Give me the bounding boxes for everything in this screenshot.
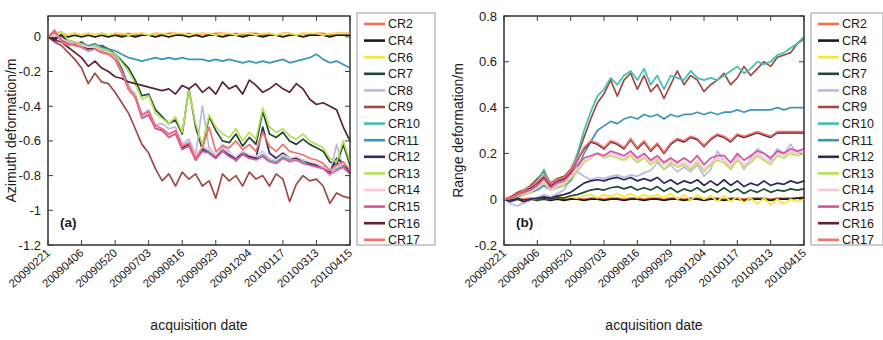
y-tick-label: -0.8 <box>19 168 41 183</box>
legend-label-cr17: CR17 <box>842 233 874 247</box>
legend-label-cr12: CR12 <box>842 150 874 164</box>
panel-b-svg: 0.80.60.40.20-0.220090221200904062009052… <box>441 0 883 340</box>
panel-tag: (b) <box>516 215 533 230</box>
legend-label-cr6: CR6 <box>388 51 413 65</box>
y-tick-label: 0.8 <box>479 9 497 24</box>
legend-label-cr15: CR15 <box>842 200 874 214</box>
y-tick-label: 0 <box>490 192 497 207</box>
y-tick-label: 0.2 <box>479 146 497 161</box>
y-tick-label: -0.6 <box>19 133 41 148</box>
legend-label-cr7: CR7 <box>388 67 413 81</box>
y-tick-label: 0.4 <box>479 100 497 115</box>
y-tick-label: -1.2 <box>19 238 41 253</box>
legend-label-cr12: CR12 <box>388 150 420 164</box>
legend-label-cr13: CR13 <box>388 167 420 181</box>
panel-a: 0-0.2-0.4-0.6-0.8-1-1.220090221200904062… <box>0 0 441 340</box>
legend-label-cr8: CR8 <box>842 84 867 98</box>
figure-container: 0-0.2-0.4-0.6-0.8-1-1.220090221200904062… <box>0 0 883 340</box>
legend-label-cr10: CR10 <box>388 117 420 131</box>
y-axis-title: Azimuth deformation/m <box>3 59 19 203</box>
y-axis-title: Range deformation/m <box>450 63 466 198</box>
legend-label-cr4: CR4 <box>842 34 867 48</box>
legend-label-cr16: CR16 <box>842 217 874 231</box>
legend-label-cr14: CR14 <box>842 183 874 197</box>
legend-label-cr2: CR2 <box>388 17 413 31</box>
x-axis-title: acquisition date <box>150 317 248 333</box>
legend-label-cr9: CR9 <box>842 100 867 114</box>
panel-tag: (a) <box>60 215 77 230</box>
legend-label-cr9: CR9 <box>388 100 413 114</box>
legend-label-cr15: CR15 <box>388 200 420 214</box>
legend-label-cr11: CR11 <box>388 134 419 148</box>
legend-label-cr16: CR16 <box>388 217 420 231</box>
legend-label-cr2: CR2 <box>842 17 867 31</box>
y-tick-label: -1 <box>29 203 41 218</box>
legend-label-cr6: CR6 <box>842 51 867 65</box>
y-tick-label: 0 <box>34 29 41 44</box>
legend-label-cr4: CR4 <box>388 34 413 48</box>
panel-b: 0.80.60.40.20-0.220090221200904062009052… <box>441 0 882 340</box>
x-axis-title: acquisition date <box>605 317 703 333</box>
y-tick-label: -0.2 <box>19 64 41 79</box>
plot-frame <box>504 16 804 245</box>
legend-label-cr17: CR17 <box>388 233 420 247</box>
y-tick-label: -0.4 <box>19 99 41 114</box>
legend-label-cr8: CR8 <box>388 84 413 98</box>
y-tick-label: -0.2 <box>475 238 497 253</box>
legend-label-cr14: CR14 <box>388 183 420 197</box>
panel-a-svg: 0-0.2-0.4-0.6-0.8-1-1.220090221200904062… <box>0 0 441 340</box>
legend-label-cr10: CR10 <box>842 117 874 131</box>
legend-label-cr13: CR13 <box>842 167 874 181</box>
legend-label-cr11: CR11 <box>842 134 873 148</box>
y-tick-label: 0.6 <box>479 54 497 69</box>
legend-label-cr7: CR7 <box>842 67 867 81</box>
